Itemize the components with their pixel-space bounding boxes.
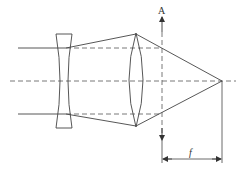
label-f: f [189, 147, 193, 158]
top-converging-ray [136, 34, 222, 81]
bottom-diverged-ray [66, 114, 136, 126]
positive-lens [129, 33, 143, 127]
label-A: A [158, 5, 166, 16]
top-diverged-ray [66, 34, 136, 48]
bottom-converging-ray [136, 81, 222, 126]
optical-diagram: A f [0, 0, 244, 175]
